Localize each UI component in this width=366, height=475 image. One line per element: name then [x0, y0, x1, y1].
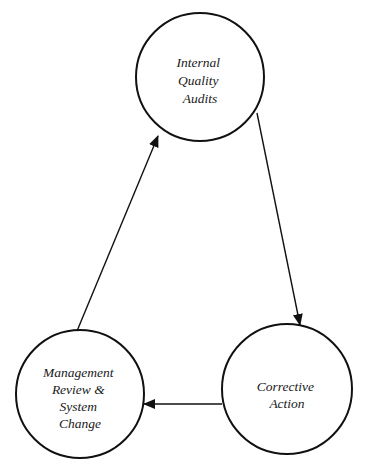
- node-label: Corrective Action: [257, 379, 318, 411]
- node-corrective-action: Corrective Action: [222, 324, 352, 454]
- node-management-review: Management Review & System Change: [16, 330, 144, 458]
- arrow-management-to-audits: [77, 136, 158, 331]
- node-internal-quality-audits: Internal Quality Audits: [136, 13, 264, 141]
- quality-cycle-diagram: Internal Quality Audits Corrective Actio…: [0, 0, 366, 475]
- arrow-audits-to-corrective: [257, 113, 300, 325]
- node-label: Management Review & System Change: [42, 365, 117, 431]
- node-label: Internal Quality Audits: [176, 55, 224, 106]
